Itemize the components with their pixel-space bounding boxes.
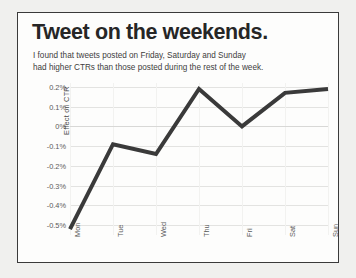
y-axis-tick-label: -0.4% [26, 201, 66, 210]
y-axis-tick-label: 0.2% [26, 82, 66, 91]
x-axis-tick-label: Tue [116, 225, 125, 237]
x-axis-tick-label: Sat [288, 226, 297, 237]
y-axis-tick-label: 0.1% [26, 102, 66, 111]
chart-plot-region: 0.2%0.1%0%-0.1%-0.2%-0.3%-0.4%-0.5% Effe… [18, 83, 340, 261]
series-polyline [70, 89, 328, 229]
plot-area [70, 83, 328, 235]
gridline-vertical [328, 83, 329, 235]
line-series [70, 83, 328, 235]
x-axis-tick-label: Wed [159, 222, 168, 237]
slide-panel: Tweet on the weekends. I found that twee… [17, 12, 339, 263]
chart-subtitle: I found that tweets posted on Friday, Sa… [33, 50, 323, 74]
page-title: Tweet on the weekends. [32, 21, 328, 44]
x-axis-tick-label: Mon [73, 223, 82, 237]
y-axis-tick-label: -0.3% [26, 181, 66, 190]
x-axis-tick-label: Fri [245, 228, 254, 237]
y-axis-tick-labels: 0.2%0.1%0%-0.1%-0.2%-0.3%-0.4%-0.5% [18, 83, 66, 261]
x-axis-tick-labels: MonTueWedThuFriSatSun [70, 235, 328, 261]
slide-background: Tweet on the weekends. I found that twee… [0, 0, 356, 278]
y-axis-tick-label: -0.5% [26, 221, 66, 230]
chart-subtitle-line-1: I found that tweets posted on Friday, Sa… [33, 50, 323, 62]
chart-subtitle-line-2: had higher CTRs than those posted during… [33, 62, 323, 74]
x-axis-tick-label: Sun [331, 224, 340, 237]
x-axis-tick-label: Thu [202, 224, 211, 237]
y-axis-tick-label: 0% [26, 122, 66, 131]
y-axis-tick-label: -0.1% [26, 142, 66, 151]
y-axis-tick-label: -0.2% [26, 161, 66, 170]
